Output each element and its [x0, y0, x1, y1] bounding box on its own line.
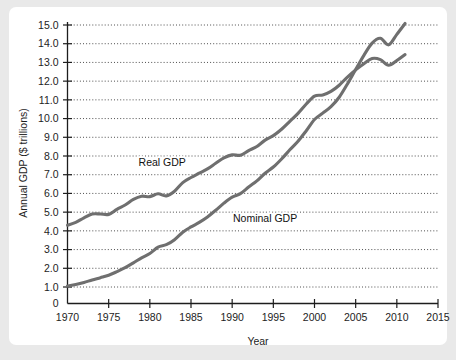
gdp-line-chart: 01.02.03.04.05.06.07.08.09.010.011.012.0…: [0, 0, 456, 360]
x-tick-label: 2005: [344, 311, 368, 323]
x-axis-title: Year: [247, 335, 269, 347]
screenshot-root: 01.02.03.04.05.06.07.08.09.010.011.012.0…: [0, 0, 456, 360]
y-tick-label: 9.0: [44, 131, 59, 143]
x-tick-label: 1990: [220, 311, 244, 323]
axes: [68, 22, 439, 304]
series-line-real-gdp: [68, 55, 406, 226]
y-tick-label: 4.0: [44, 225, 59, 237]
y-tick-label: 8.0: [44, 150, 59, 162]
x-tick-label: 2010: [385, 311, 409, 323]
y-tick-label: 5.0: [44, 206, 59, 218]
y-tick-label: 11.0: [39, 94, 59, 106]
x-tick-label: 1995: [262, 311, 286, 323]
y-tick-label: 2.0: [44, 262, 59, 274]
x-axis-tick-labels: 1970197519801985199019952000200520102015: [56, 311, 450, 323]
chart-canvas: 01.02.03.04.05.06.07.08.09.010.011.012.0…: [0, 0, 456, 360]
y-axis-tick-labels: 01.02.03.04.05.06.07.08.09.010.011.012.0…: [38, 19, 59, 310]
y-tick-label: 12.0: [38, 75, 59, 87]
y-tick-label: 7.0: [44, 168, 59, 180]
x-tick-label: 2000: [303, 311, 327, 323]
x-tick-label: 1980: [138, 311, 162, 323]
y-tick-label: 3.0: [44, 243, 59, 255]
y-tick-label: 13.0: [38, 56, 59, 68]
series-label-real-gdp: Real GDP: [139, 156, 186, 168]
series-label-nominal-gdp: Nominal GDP: [233, 212, 297, 224]
y-tick-label: 10.0: [38, 112, 59, 124]
x-tick-label: 2015: [426, 311, 450, 323]
x-tick-label: 1970: [56, 311, 80, 323]
y-tick-label: 0: [53, 297, 59, 309]
tick-marks: [63, 25, 438, 308]
y-tick-label: 6.0: [44, 187, 59, 199]
y-tick-label: 15.0: [38, 19, 59, 31]
y-tick-label: 1.0: [44, 281, 59, 293]
data-series: [68, 24, 406, 287]
y-axis-title: Annual GDP ($ trillions): [17, 108, 29, 218]
gridlines: [68, 25, 439, 287]
x-tick-label: 1985: [179, 311, 203, 323]
y-tick-label: 14.0: [38, 37, 59, 49]
x-tick-label: 1975: [97, 311, 121, 323]
